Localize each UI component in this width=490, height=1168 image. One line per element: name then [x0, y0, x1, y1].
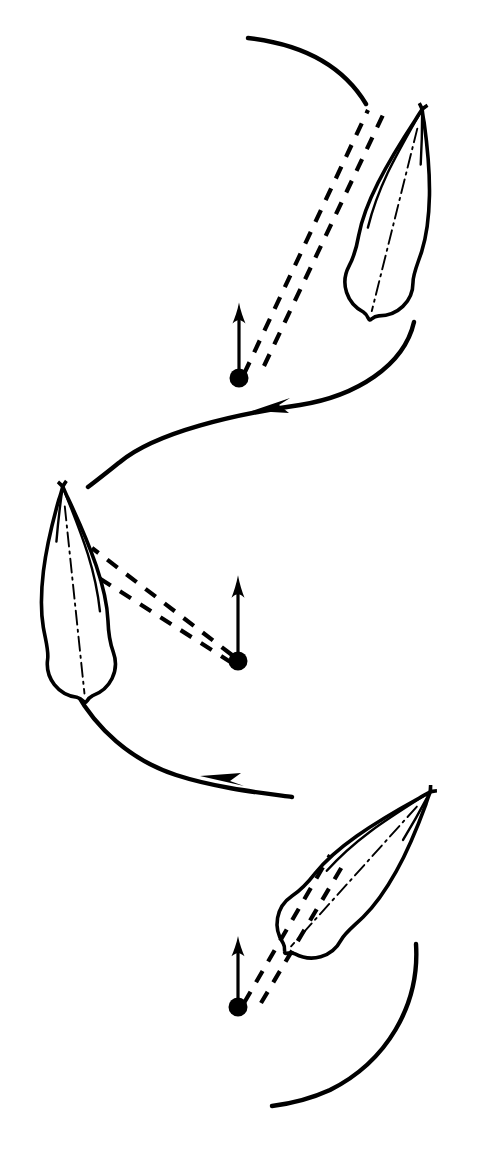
organism-top: [337, 95, 457, 328]
path-curve-third: [76, 692, 292, 797]
sight-line-middle-b: [96, 576, 232, 663]
reference-vector-middle: [229, 575, 248, 670]
reference-vector-top: [230, 302, 249, 387]
swimming-path-group: [76, 38, 416, 1106]
sight-line-top-a: [244, 110, 368, 374]
reference-vector-bottom: [229, 936, 248, 1016]
reference-dot-middle: [229, 652, 248, 671]
path-curve-second: [88, 322, 414, 487]
path-curve-upper: [248, 38, 366, 104]
sight-line-middle-a: [92, 548, 232, 655]
figure-root: [0, 0, 490, 1168]
reference-dot-top: [230, 369, 249, 388]
trajectory-diagram: [0, 0, 490, 1168]
reference-dot-bottom: [229, 998, 248, 1017]
organism-middle: [28, 477, 119, 707]
path-curve-lower: [272, 944, 416, 1106]
